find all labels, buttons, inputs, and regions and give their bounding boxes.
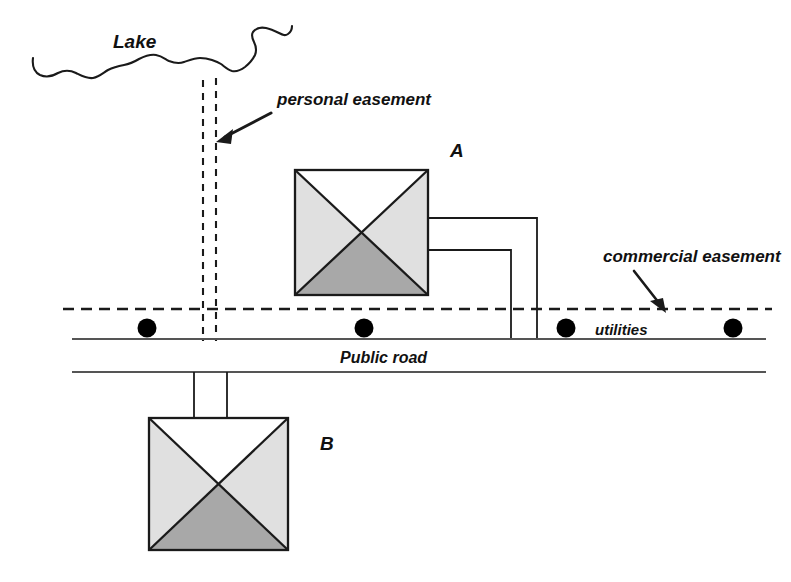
house-a-group bbox=[295, 170, 428, 295]
diagram-canvas: Lake personal easement A bbox=[0, 0, 791, 582]
house-b-label: B bbox=[320, 433, 334, 454]
lake-shoreline-group bbox=[33, 26, 292, 78]
house-a-label: A bbox=[449, 140, 464, 161]
utility-dots-group bbox=[138, 319, 743, 338]
utility-dot bbox=[724, 319, 743, 338]
utilities-label: utilities bbox=[595, 321, 648, 338]
lake-shoreline-path bbox=[33, 26, 292, 78]
public-road-label: Public road bbox=[340, 349, 428, 366]
commercial-easement-label: commercial easement bbox=[603, 247, 782, 266]
house-a-utility-line-outer bbox=[428, 218, 537, 340]
house-b-group bbox=[149, 418, 288, 550]
utility-dot bbox=[355, 319, 374, 338]
house-a-utility-lines bbox=[428, 218, 537, 340]
utility-dot bbox=[138, 319, 157, 338]
utility-dot bbox=[557, 319, 576, 338]
commercial-easement-arrow bbox=[634, 271, 666, 313]
personal-easement-arrow bbox=[216, 113, 271, 144]
lake-label: Lake bbox=[113, 31, 157, 52]
easement-diagram: Lake personal easement A bbox=[0, 0, 791, 582]
house-b-driveway-lines bbox=[194, 372, 227, 419]
personal-easement-label: personal easement bbox=[276, 90, 432, 109]
personal-easement-group bbox=[203, 78, 216, 341]
house-a-utility-line-inner bbox=[428, 250, 511, 340]
